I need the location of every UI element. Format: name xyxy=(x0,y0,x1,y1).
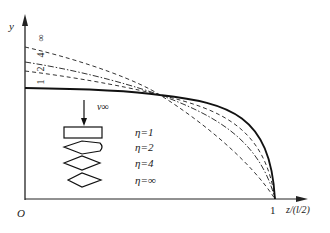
axes xyxy=(22,14,308,202)
rectangle-shape-icon xyxy=(64,127,102,138)
curve-label-infinity: ∞ xyxy=(36,34,46,41)
curve-label-1: 1 xyxy=(36,80,46,85)
legend-shapes xyxy=(64,127,102,187)
flow-velocity-label: v∞ xyxy=(97,102,109,112)
diamond-shape-icon xyxy=(68,173,101,187)
x-tick-label: 1 xyxy=(270,205,276,216)
x-axis-label: z/(l/2) xyxy=(286,205,310,215)
curve-label-4: 4 xyxy=(36,53,46,58)
legend-label-eta-1: η=1 xyxy=(135,127,153,138)
diagram-canvas xyxy=(0,0,330,233)
y-axis-label: y xyxy=(9,21,14,32)
curve-label-2: 2 xyxy=(36,67,46,72)
legend-label-eta-4: η=4 xyxy=(135,158,153,169)
legend-label-eta-infinity: η=∞ xyxy=(135,175,156,186)
legend-label-eta-2: η=2 xyxy=(135,142,153,153)
origin-label: O xyxy=(17,208,25,219)
rounded-hexagon-shape-icon xyxy=(64,141,102,154)
hexagon-shape-icon xyxy=(64,156,100,170)
flow-arrow-icon xyxy=(81,100,87,126)
